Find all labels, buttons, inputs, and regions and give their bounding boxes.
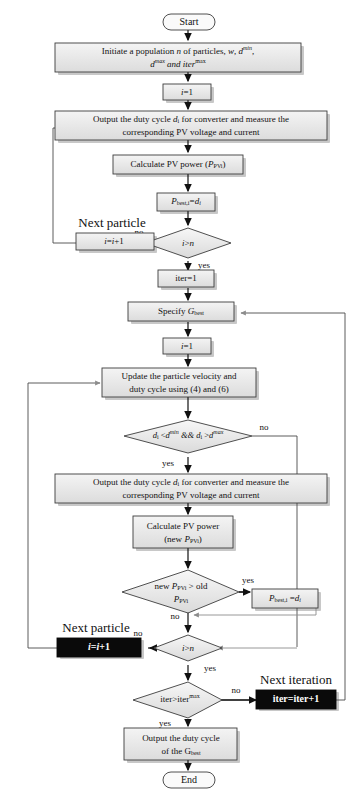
od1-line2: corresponding PV voltage and current <box>123 127 260 137</box>
node-decision-iter: iter>itermax no yes <box>133 682 241 728</box>
node-decision-i-gt-n-2: i>n no yes <box>134 628 223 673</box>
edge-label-yes-bounds: yes <box>162 458 174 468</box>
node-i-equals-1-second: i=1 <box>163 338 211 354</box>
uv-l1: Update the particle velocity and <box>122 371 237 381</box>
svg-text:i=1: i=1 <box>181 87 193 97</box>
node-initiate-population: Initiate a population n of particles, w,… <box>55 43 301 72</box>
cp2-a: (new <box>164 534 184 544</box>
node-next-particle-2: Next particle i=i+1 <box>57 620 141 657</box>
node-i-equals-1-first: i=1 <box>163 84 211 100</box>
dn-sub2: PVi <box>179 599 188 605</box>
edge-label-yes-1: yes <box>198 260 210 270</box>
sg-sub: best <box>194 311 204 317</box>
next-iteration-label: iter=iter+1 <box>273 693 319 704</box>
svg-text:di <dmin && di >dmax: di <dmin && di >dmax <box>153 429 224 440</box>
iter1-label: iter=1 <box>175 273 197 283</box>
i1a-rest: =1 <box>183 87 193 97</box>
pb-sub: best,i <box>177 201 190 207</box>
edge-label-no-2: no <box>134 628 144 638</box>
node-output-duty-cycle-2: Output the duty cycle di for converter a… <box>55 474 327 503</box>
cp2-b: ) <box>199 534 202 544</box>
svg-text:Output the duty cycle di for c: Output the duty cycle di for converter a… <box>93 114 289 125</box>
dn-sub: PVi <box>177 586 186 592</box>
od2-b: for converter and measure the <box>179 477 289 487</box>
svg-text:i>n: i>n <box>182 238 195 248</box>
di-sup: max <box>189 693 199 699</box>
node-iter-equals-1: iter=1 <box>158 270 214 287</box>
svg-text:Output the duty cycle di for c: Output the duty cycle di for converter a… <box>93 477 289 488</box>
svg-text:i=1: i=1 <box>181 341 193 351</box>
node-calculate-pv-power-2: Calculate PV power (new PPVi) <box>133 516 233 548</box>
node-next-iteration: Next iteration iter=iter+1 <box>256 672 336 709</box>
uv-l2: duty cycle using (4) and (6) <box>129 384 229 394</box>
edge-label-no-new: no <box>171 611 181 621</box>
svg-text:i=i+1: i=i+1 <box>104 236 124 246</box>
d2-n: n <box>190 643 195 653</box>
og-sub: best <box>191 751 201 757</box>
svg-text:i>n: i>n <box>182 643 195 653</box>
db-amp: && <box>179 430 196 440</box>
pb2-eq: = <box>287 593 294 603</box>
od1-b: for converter and measure the <box>179 114 289 124</box>
dn-a: new <box>155 581 172 591</box>
next-particle-1-caption: Next particle <box>78 215 146 230</box>
di-a: iter>iter <box>160 694 189 704</box>
db-dmaxsup: max <box>213 429 223 435</box>
cp1-b: ) <box>223 159 226 169</box>
initiate-dmin-sup: min <box>243 45 252 51</box>
node-update-velocity: Update the particle velocity and duty cy… <box>102 368 256 397</box>
flowchart-canvas: Start Initiate a population n of particl… <box>0 0 359 809</box>
db-dminsup: min <box>170 429 179 435</box>
np2-plus: +1 <box>99 641 110 652</box>
d1-n: n <box>190 238 195 248</box>
od2-a: Output the duty cycle <box>93 477 173 487</box>
initiate-and: and iter <box>165 59 196 69</box>
svg-text:Initiate a population n of par: Initiate a population n of particles, w,… <box>102 45 254 56</box>
flowchart-svg: Start Initiate a population n of particl… <box>0 0 359 809</box>
node-output-gbest: Output the duty cycle of the Gbest <box>124 728 237 760</box>
edge-label-no-bounds: no <box>260 422 270 432</box>
edge-label-yes-2: yes <box>204 663 216 673</box>
od2-line2: corresponding PV voltage and current <box>123 490 260 500</box>
initiate-iter-sup: max <box>195 58 205 64</box>
cp2-sub: PVi <box>190 539 199 545</box>
node-specify-gbest: Specify Gbest <box>128 302 234 321</box>
edge-label-yes-new: yes <box>242 575 254 585</box>
initiate-comma: , <box>252 46 254 56</box>
initiate-dmax-sup: max <box>155 58 165 64</box>
og-l1: Output the duty cycle <box>142 733 220 743</box>
node-end: End <box>163 772 215 788</box>
cp1-sub: PVi <box>214 164 223 170</box>
svg-text:i=i+1: i=i+1 <box>88 641 110 652</box>
cp2-l1: Calculate PV power <box>147 521 219 531</box>
node-decision-bounds: di <dmin && di >dmax no yes <box>124 420 269 468</box>
cp1-a: Calculate PV power ( <box>130 159 208 169</box>
node-start: Start <box>163 14 215 30</box>
sg-a: Specify <box>158 306 188 316</box>
node-end-label: End <box>181 774 197 785</box>
pb2-sub: best,i <box>275 597 288 603</box>
node-start-label: Start <box>180 16 199 27</box>
edge-label-yes-iter: yes <box>159 718 171 728</box>
og-a: of the G <box>161 746 191 756</box>
next-iteration-caption: Next iteration <box>260 672 332 687</box>
od1-a: Output the duty cycle <box>93 114 173 124</box>
np1-plus: +1 <box>114 236 124 246</box>
next-particle-2-caption: Next particle <box>62 620 130 635</box>
dn-b: > old <box>186 581 208 591</box>
edge-label-no-iter: no <box>232 685 242 695</box>
initiate-l1a: Initiate a population <box>102 46 177 56</box>
node-pbest-assign-2: Pbest,i =di <box>252 589 318 608</box>
initiate-l1b: of particles, <box>181 46 228 56</box>
node-output-duty-cycle-1: Output the duty cycle di for converter a… <box>55 111 327 140</box>
svg-text:Calculate PV power (PPVi): Calculate PV power (PPVi) <box>130 159 225 170</box>
node-pbest-assign: Pbest,i=di <box>157 193 215 211</box>
i1b-rest: =1 <box>183 341 193 351</box>
node-calculate-pv-power-1: Calculate PV power (PPVi) <box>113 155 243 174</box>
